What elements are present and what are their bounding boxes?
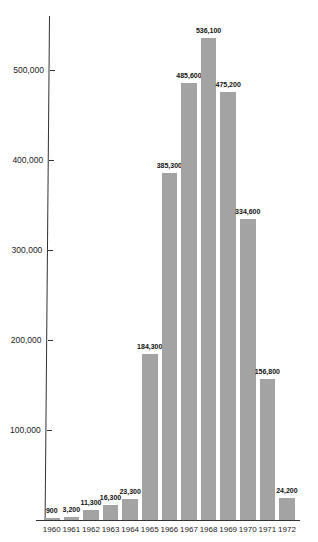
bar-1961 [64, 517, 80, 520]
bar-1968 [201, 38, 217, 520]
bar-1969 [220, 92, 236, 520]
value-label: 156,800 [247, 368, 287, 375]
bar-chart: 100,000200,000300,000400,000500,000 9001… [0, 0, 318, 542]
value-label: 24,200 [267, 487, 307, 494]
bar-1964 [122, 499, 138, 520]
y-tick-mark [47, 430, 52, 431]
value-label: 475,200 [208, 81, 248, 88]
y-tick-label: 300,000 [2, 245, 42, 255]
bar-1966 [162, 173, 178, 520]
y-tick-mark [50, 70, 55, 71]
bar-1967 [181, 83, 197, 520]
x-tick-label: 1972 [276, 525, 298, 534]
y-tick-label: 500,000 [4, 65, 44, 75]
y-tick-label: 100,000 [1, 425, 41, 435]
x-axis-line [36, 520, 300, 521]
y-tick-label: 400,000 [3, 155, 43, 165]
y-axis-line [45, 16, 50, 521]
bar-1960 [44, 518, 60, 520]
value-label: 334,600 [228, 208, 268, 215]
bar-1965 [142, 354, 158, 520]
y-tick-mark [49, 160, 54, 161]
y-tick-mark [48, 250, 53, 251]
bar-1972 [279, 498, 295, 520]
bar-1971 [260, 379, 276, 520]
y-tick-mark [48, 340, 53, 341]
bar-1962 [83, 510, 99, 520]
bar-1963 [103, 505, 119, 520]
y-tick-label: 200,000 [2, 335, 42, 345]
value-label: 536,100 [189, 27, 229, 34]
